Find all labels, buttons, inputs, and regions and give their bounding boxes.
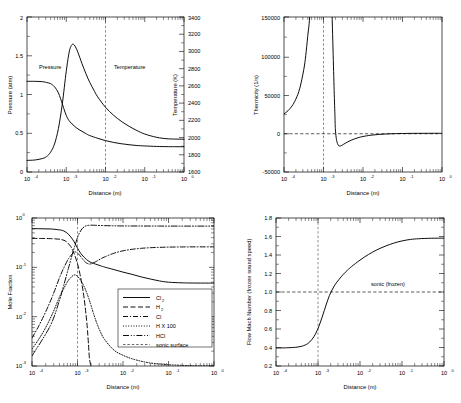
legend-label-cl: Cl	[156, 314, 161, 320]
yaxis-mach-ticklabels: 0.2 0.4 0.6 0.8 1.0 1.2 1.4 1.6 1.8	[264, 215, 272, 369]
ytick-exp-bl-1: -2	[23, 311, 27, 316]
xtick-tr-1: 10	[320, 176, 326, 182]
xtick-tr-4: 10	[439, 176, 445, 182]
y2tick-tl-5: 2600	[188, 83, 200, 89]
yaxis-label-mach: Flow Mach Number (frozen sound speed)	[246, 239, 252, 346]
ytick-exp-bl-0: -3	[23, 360, 27, 365]
xtick-tr-2: 10	[360, 176, 366, 182]
xtick-tl-4: 10	[181, 176, 187, 182]
ytick-tr-3: 100000	[261, 54, 280, 60]
ytick-bl-3: 10	[16, 215, 22, 221]
xtick-exp-tr-0: -4	[292, 174, 296, 179]
legend-mole-fraction: Cl 2 H 2 Cl H X 100 HCl sonic surface	[118, 289, 212, 348]
ytick-bl-0: 10	[16, 363, 22, 369]
xtick-exp-tr-1: -3	[331, 174, 335, 179]
xaxis-label-tr: Distance (m)	[347, 190, 380, 196]
ytick-br-7: 1.6	[264, 234, 272, 240]
curve-mach-number	[276, 238, 444, 348]
yaxis-label-temperature: Temperature (K)	[172, 74, 178, 116]
ytick-tr-1: 0	[277, 131, 280, 137]
xtick-tr-0: 10	[281, 176, 287, 182]
curve-cl2	[32, 229, 214, 283]
xtick-exp-tr-3: -1	[410, 174, 414, 179]
xtick-exp-br-1: -3	[326, 368, 330, 373]
xaxis-ticklabels-tr: 10 -4 10 -3 10 -2 10 -1 10 0	[281, 174, 453, 182]
xaxis-ticklabels-br: 10 -4 10 -3 10 -2 10 -1 10 0	[273, 368, 455, 376]
ytick-bl-1: 10	[16, 314, 22, 320]
ytick-tr-2: 50000	[264, 93, 280, 99]
legend-sub-cl2: 2	[162, 298, 164, 303]
xtick-bl-1: 10	[74, 370, 80, 376]
xtick-br-3: 10	[399, 370, 405, 376]
y2tick-tl-6: 2800	[188, 66, 200, 72]
curve-h2	[32, 238, 91, 366]
ytick-tr-0: -50000	[263, 169, 280, 175]
yaxis-molefraction-ticklabels: 10 -3 10 -2 10 -1 10 0	[16, 212, 27, 369]
ytick-exp-bl-3: 0	[23, 212, 26, 217]
y2tick-tl-8: 3200	[188, 31, 200, 37]
xtick-exp-bl-1: -3	[85, 368, 89, 373]
yaxis-temperature-ticks: 1600 1800 2000 2200 2400 2600 2800 3000 …	[179, 15, 200, 176]
xtick-tr-3: 10	[399, 176, 405, 182]
ytick-br-2: 0.6	[264, 326, 272, 332]
ytick-tl-1: 0.5	[15, 130, 23, 136]
yaxis-label-pressure: Pressure (atm)	[7, 76, 13, 114]
xtick-exp-tr-4: 0	[450, 174, 453, 179]
xtick-exp-bl-4: 0	[222, 368, 225, 373]
panel-mole-fraction: 10 -3 10 -2 10 -1 10 0 Mole Fraction 10 …	[0, 202, 231, 403]
y2tick-tl-3: 2200	[188, 117, 200, 123]
xtick-tl-2: 10	[102, 176, 108, 182]
ytick-tl-2: 1	[20, 92, 23, 98]
xtick-bl-3: 10	[165, 370, 171, 376]
legend-label-cl2: Cl	[156, 295, 161, 301]
xtick-br-1: 10	[315, 370, 321, 376]
xaxis-label-br: Distance (m)	[344, 384, 377, 390]
y2tick-tl-1: 1800	[188, 152, 200, 158]
xtick-exp-br-0: -4	[284, 368, 288, 373]
legend-label-h-x-100: H X 100	[156, 323, 176, 329]
yaxis-thermicity-ticks: -50000 0 50000 100000 150000	[261, 15, 289, 176]
panel-thermicity: -50000 0 50000 100000 150000 Thermicity …	[231, 0, 461, 202]
ytick-br-8: 1.8	[264, 215, 272, 221]
legend-label-hcl: HCl	[156, 333, 165, 339]
ytick-br-3: 0.8	[264, 308, 272, 314]
legend-sub-h2: 2	[161, 307, 163, 312]
y2tick-tl-4: 2400	[188, 100, 200, 106]
xtick-exp-tr-2: -2	[371, 174, 375, 179]
panel-pressure-temperature: 0 0.5 1 1.5 2 Pressure (atm)	[0, 0, 231, 202]
ytick-exp-bl-2: -1	[23, 262, 27, 267]
ytick-br-4: 1.0	[264, 289, 272, 295]
xtick-exp-bl-0: -4	[40, 368, 44, 373]
xtick-tl-1: 10	[63, 176, 69, 182]
legend-label-sonic-surface: sonic surface	[156, 342, 188, 348]
yaxis-label-thermicity: Thermicity (1/s)	[253, 75, 259, 115]
legend-label-h2: H	[156, 304, 160, 310]
xtick-exp-tl-2: -2	[113, 174, 117, 179]
yaxis-pressure-ticks: 0 0.5 1 1.5 2	[15, 15, 32, 176]
xtick-exp-bl-3: -1	[176, 368, 180, 373]
ytick-br-0: 0.2	[264, 363, 272, 369]
xtick-exp-tl-1: -3	[74, 174, 78, 179]
xaxis-label-tl: Distance (m)	[89, 190, 122, 196]
y2tick-tl-0: 1600	[188, 169, 200, 175]
ytick-br-1: 0.4	[264, 345, 272, 351]
ytick-tr-4: 150000	[261, 15, 280, 21]
y2tick-tl-9: 3400	[188, 15, 200, 21]
yaxis-label-molefraction: Mole Fraction	[7, 274, 13, 309]
xtick-bl-0: 10	[29, 370, 35, 376]
ytick-tl-4: 2	[20, 15, 23, 21]
annotation-temperature: Temperature	[114, 64, 145, 70]
xtick-bl-2: 10	[120, 370, 126, 376]
xtick-tl-0: 10	[24, 176, 30, 182]
ytick-br-6: 1.4	[264, 252, 272, 258]
xtick-bl-4: 10	[211, 370, 217, 376]
xtick-tl-3: 10	[142, 176, 148, 182]
xtick-exp-br-3: -1	[410, 368, 414, 373]
xtick-exp-br-4: 0	[452, 368, 455, 373]
ytick-tl-3: 1.5	[15, 53, 23, 59]
ytick-tl-0: 0	[20, 169, 23, 175]
figure-root: 0 0.5 1 1.5 2 Pressure (atm)	[0, 0, 461, 403]
xaxis-label-bl: Distance (m)	[107, 384, 140, 390]
xaxis-ticklabels-bl: 10 -4 10 -3 10 -2 10 -1 10 0	[29, 368, 225, 376]
xtick-br-4: 10	[441, 370, 447, 376]
